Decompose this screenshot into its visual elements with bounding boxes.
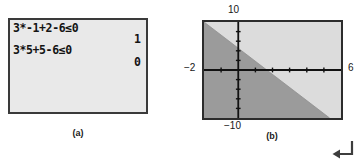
calculator-home-screen: 3*-1+2-6≤0 1 3*5+5-6≤0 0 xyxy=(8,18,148,114)
calc-result-line-2: 0 xyxy=(134,56,141,68)
y-axis-min-label: −10 xyxy=(224,120,241,131)
calc-entry-line-1: 3*-1+2-6≤0 xyxy=(13,22,78,34)
enter-arrow-icon xyxy=(330,140,356,160)
plot-frame xyxy=(202,20,343,120)
panel-caption-a: (a) xyxy=(58,128,98,138)
calculator-graph-screen xyxy=(202,20,343,120)
plot-drawing-area xyxy=(204,22,341,118)
panel-caption-b: (b) xyxy=(252,131,292,141)
calc-result-line-1: 1 xyxy=(134,33,141,45)
calc-entry-line-2: 3*5+5-6≤0 xyxy=(13,44,72,56)
x-axis-min-label: −2 xyxy=(184,62,195,73)
x-axis-max-label: 6 xyxy=(348,62,354,73)
figure-container: 3*-1+2-6≤0 1 3*5+5-6≤0 0 (a) xyxy=(0,0,364,163)
y-axis-max-label: 10 xyxy=(228,4,239,15)
